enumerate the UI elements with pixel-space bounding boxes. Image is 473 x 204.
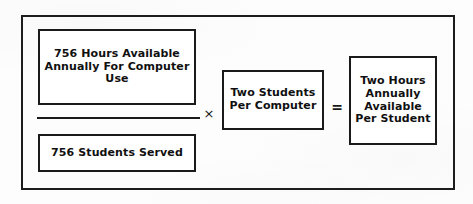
numerator-line-1: 756 Hours Available: [45, 48, 190, 61]
result-box: Two Hours Annually Available Per Student: [349, 56, 437, 145]
equals-operator-icon: =: [327, 98, 347, 116]
multiply-operator-icon: ×: [199, 104, 219, 122]
figure-canvas: 756 Hours Available Annually For Compute…: [0, 0, 473, 204]
multiplier-line-2: Per Computer: [230, 100, 317, 113]
denominator-text: 756 Students Served: [51, 147, 183, 160]
multiplier-box: Two Students Per Computer: [222, 70, 324, 130]
numerator-line-3: Use: [45, 73, 190, 86]
denominator-box: 756 Students Served: [38, 134, 196, 172]
result-line-1: Two Hours: [355, 75, 430, 88]
result-line-4: Per Student: [355, 113, 430, 126]
multiplier-text: Two Students Per Computer: [230, 87, 317, 113]
numerator-box: 756 Hours Available Annually For Compute…: [38, 29, 196, 105]
fraction-bar: [37, 117, 200, 119]
result-text: Two Hours Annually Available Per Student: [355, 75, 430, 127]
denominator-line-1: 756 Students Served: [51, 147, 183, 160]
numerator-text: 756 Hours Available Annually For Compute…: [45, 48, 190, 87]
result-line-2: Annually: [355, 88, 430, 101]
